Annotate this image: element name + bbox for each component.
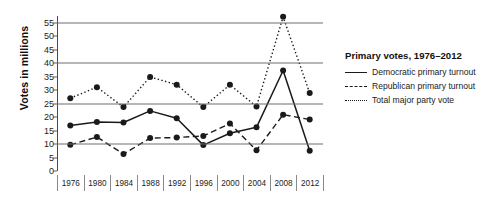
data-point	[121, 119, 127, 125]
data-point	[227, 121, 233, 127]
data-point	[94, 119, 100, 125]
data-point	[121, 151, 127, 157]
series-line	[70, 115, 309, 154]
gridline	[57, 63, 323, 64]
data-point	[174, 115, 180, 121]
series-line	[70, 70, 309, 150]
data-point	[94, 134, 100, 140]
data-point	[254, 124, 260, 130]
y-tick-mark	[53, 36, 57, 37]
y-tick-mark	[53, 157, 57, 158]
data-point	[147, 135, 153, 141]
y-tick-mark	[53, 76, 57, 77]
legend-entry-label: Democratic primary turnout	[372, 67, 476, 77]
legend-entry: Democratic primary turnout	[345, 67, 495, 77]
legend-solid-line-icon	[345, 68, 367, 77]
data-point	[254, 104, 260, 110]
y-tick-mark	[53, 171, 57, 172]
data-point	[307, 90, 313, 96]
data-point	[280, 14, 286, 20]
x-axis-label: 1988	[138, 175, 165, 191]
legend-title: Primary votes, 1976–2012	[345, 50, 495, 61]
legend-entry-label: Total major party vote	[372, 95, 454, 105]
gridline	[57, 22, 323, 23]
x-axis-label: 2012	[297, 175, 324, 191]
legend-dotted-line-icon	[345, 96, 367, 105]
x-axis-label: 1992	[164, 175, 191, 191]
x-axis-label: 2008	[271, 175, 298, 191]
legend-entries: Democratic primary turnoutRepublican pri…	[345, 67, 495, 105]
y-tick-mark	[53, 49, 57, 50]
data-point	[254, 147, 260, 153]
data-point	[280, 67, 286, 73]
y-tick-mark	[53, 90, 57, 91]
chart-legend: Primary votes, 1976–2012 Democratic prim…	[345, 50, 495, 109]
x-axis-label: 2004	[244, 175, 271, 191]
data-point	[147, 108, 153, 114]
series-lines	[57, 16, 323, 171]
plot-area: 0510152025303540455055	[57, 16, 323, 171]
data-point	[227, 130, 233, 136]
data-point	[200, 133, 206, 139]
y-tick-mark	[53, 130, 57, 131]
x-axis-label: 1976	[58, 175, 85, 191]
legend-entry: Republican primary turnout	[345, 81, 495, 91]
y-axis-title: Votes in millions	[18, 8, 30, 128]
gridline	[57, 144, 323, 145]
data-point	[67, 122, 73, 128]
data-point	[147, 74, 153, 80]
x-axis-labels: 1976198019841988199219962000200420082012	[57, 175, 324, 191]
data-point	[174, 135, 180, 141]
data-point	[227, 82, 233, 88]
x-axis-label: 1984	[111, 175, 138, 191]
gridline	[57, 103, 323, 104]
x-axis-label: 1996	[191, 175, 218, 191]
data-point	[307, 148, 313, 154]
data-point	[67, 95, 73, 101]
x-axis-label: 2000	[218, 175, 245, 191]
data-point	[94, 84, 100, 90]
data-point	[174, 82, 180, 88]
legend-dashed-line-icon	[345, 82, 367, 91]
data-point	[121, 104, 127, 110]
data-point	[280, 112, 286, 118]
chart-figure: Votes in millions 0510152025303540455055…	[0, 0, 495, 202]
y-tick-mark	[53, 117, 57, 118]
x-axis-label: 1980	[85, 175, 112, 191]
legend-entry-label: Republican primary turnout	[372, 81, 475, 91]
data-point	[307, 117, 313, 123]
legend-entry: Total major party vote	[345, 95, 495, 105]
data-point	[200, 104, 206, 110]
